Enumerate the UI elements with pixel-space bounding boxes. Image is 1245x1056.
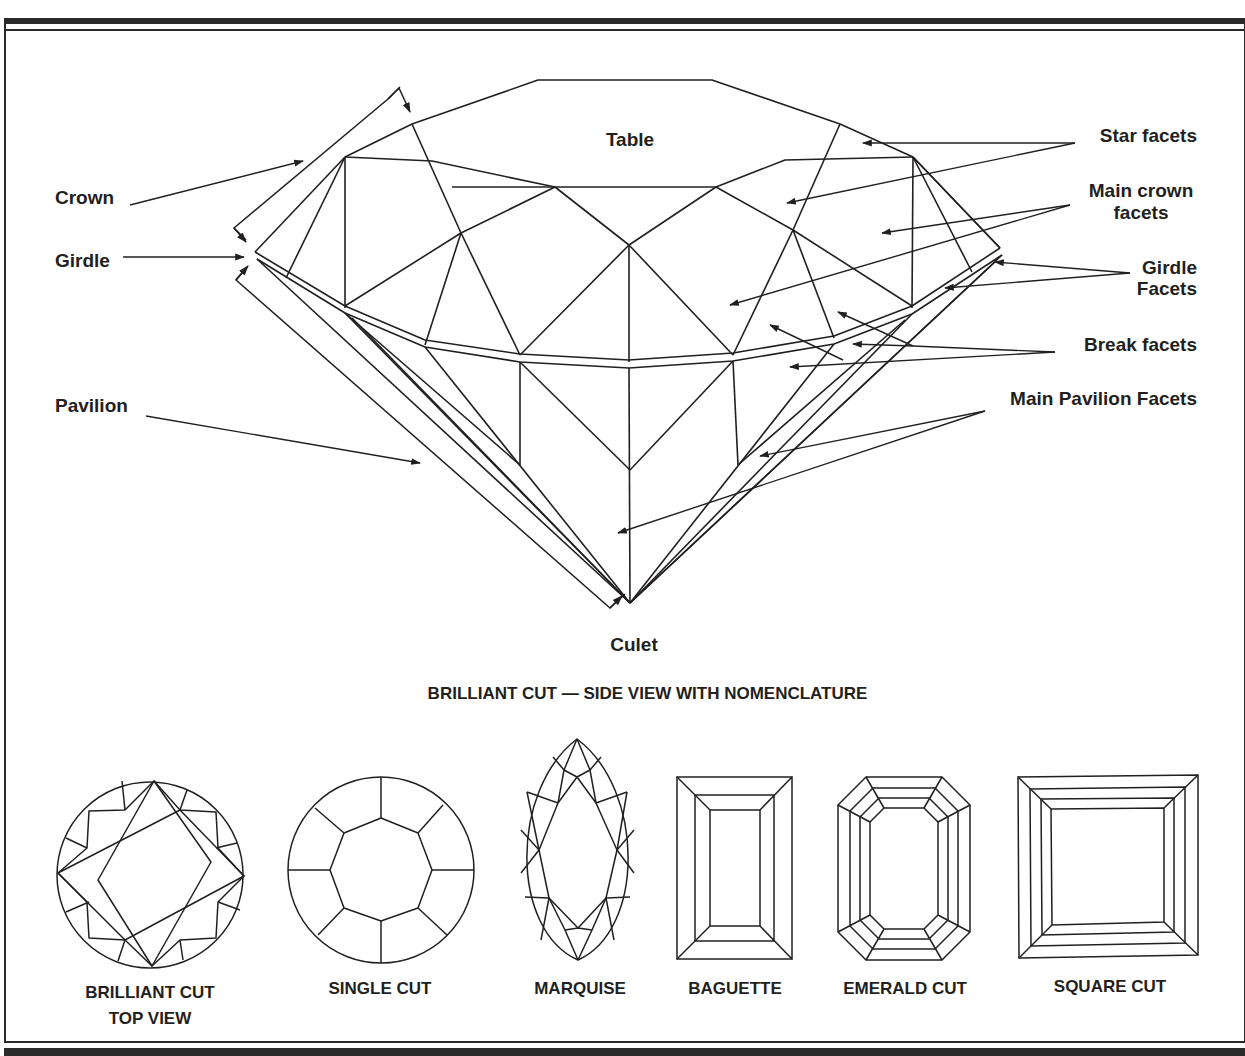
cut-label-brilliant: BRILLIANT CUT TOP VIEW xyxy=(80,980,220,1032)
label-main-pavilion-facets: Main Pavilion Facets xyxy=(1010,388,1197,410)
pavilion-bracket xyxy=(236,266,625,608)
cut-label-single: SINGLE CUT xyxy=(310,976,450,1002)
marquise-shape xyxy=(521,739,634,960)
label-crown: Crown xyxy=(55,187,114,209)
label-star-facets: Star facets xyxy=(1100,125,1197,147)
side-view-caption: BRILLIANT CUT — SIDE VIEW WITH NOMENCLAT… xyxy=(0,681,1245,707)
cut-label-brilliant-line1: BRILLIANT CUT xyxy=(80,980,220,1006)
square-cut-shape xyxy=(1018,775,1198,958)
cut-label-square: SQUARE CUT xyxy=(1035,974,1185,1000)
label-main-crown-facets-line1: Main crown xyxy=(1078,180,1204,202)
leader-lines xyxy=(123,143,1130,533)
pavilion-leader xyxy=(146,416,420,463)
label-table: Table xyxy=(590,129,670,151)
cut-label-brilliant-line2: TOP VIEW xyxy=(80,1006,220,1032)
label-main-crown-facets-line2: facets xyxy=(1078,202,1204,224)
cut-label-marquise: MARQUISE xyxy=(510,976,650,1002)
label-girdle-facets-line1: Girdle xyxy=(1142,257,1197,279)
girdle-band-upper xyxy=(255,248,1000,360)
brilliant-top-view-shape xyxy=(57,781,244,968)
baguette-shape xyxy=(677,777,792,959)
crown-leader xyxy=(130,161,303,205)
cut-label-baguette: BAGUETTE xyxy=(665,976,805,1002)
cut-label-emerald: EMERALD CUT xyxy=(825,976,985,1002)
single-cut-shape xyxy=(288,777,474,963)
label-culet: Culet xyxy=(594,634,674,656)
brilliant-side-view-diamond xyxy=(255,80,1002,603)
emerald-cut-shape xyxy=(838,777,970,960)
diagram-canvas xyxy=(0,0,1245,1056)
label-girdle-facets-line2: Facets xyxy=(1137,278,1197,300)
label-pavilion: Pavilion xyxy=(55,395,128,417)
crown-bracket xyxy=(234,87,410,242)
label-girdle: Girdle xyxy=(55,250,110,272)
label-break-facets: Break facets xyxy=(1084,334,1197,356)
